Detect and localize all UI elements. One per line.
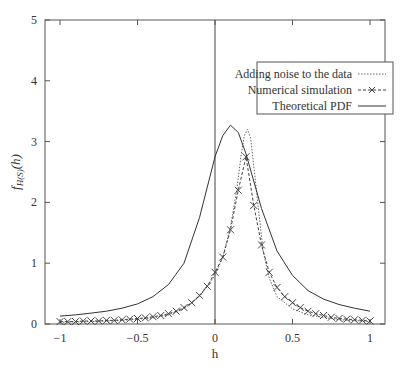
chart: −1−0.500.51012345 Adding noise to the da…	[0, 0, 401, 372]
x-marker	[103, 317, 110, 324]
x-tick-label: 0.5	[285, 331, 300, 345]
legend: Adding noise to the dataNumerical simula…	[235, 62, 393, 114]
legend-label: Numerical simulation	[248, 83, 352, 97]
x-tick-label: 1	[367, 331, 373, 345]
x-marker	[119, 316, 126, 323]
y-tick-label: 5	[31, 13, 37, 27]
x-marker	[281, 293, 288, 300]
x-marker	[305, 308, 312, 315]
x-marker	[204, 283, 211, 290]
y-axis-label: fH(S)(h)	[8, 154, 25, 190]
y-tick-label: 3	[31, 135, 37, 149]
x-marker	[196, 292, 203, 299]
y-tick-label: 2	[31, 195, 37, 209]
x-axis-label: h	[212, 346, 219, 361]
legend-label: Adding noise to the data	[235, 67, 353, 81]
x-marker	[297, 304, 304, 311]
y-tick-label: 0	[31, 317, 37, 331]
x-tick-label: −0.5	[127, 331, 149, 345]
y-axis-label-arg: (h)	[8, 154, 23, 169]
x-marker	[188, 299, 195, 306]
x-marker	[88, 317, 95, 324]
y-tick-label: 4	[31, 74, 37, 88]
x-tick-label: −1	[54, 331, 67, 345]
x-marker	[219, 254, 226, 261]
x-tick-label: 0	[212, 331, 218, 345]
x-marker	[320, 312, 327, 319]
x-marker	[351, 316, 358, 323]
x-marker	[266, 269, 273, 276]
x-marker	[274, 284, 281, 291]
x-marker	[312, 310, 319, 317]
x-marker	[181, 304, 188, 311]
x-marker	[173, 308, 180, 315]
x-marker	[157, 312, 164, 319]
x-marker	[289, 299, 296, 306]
y-axis-label-sub: H(S)	[15, 169, 25, 187]
x-marker	[328, 314, 335, 321]
legend-label: Theoretical PDF	[272, 99, 352, 113]
y-tick-label: 1	[31, 256, 37, 270]
